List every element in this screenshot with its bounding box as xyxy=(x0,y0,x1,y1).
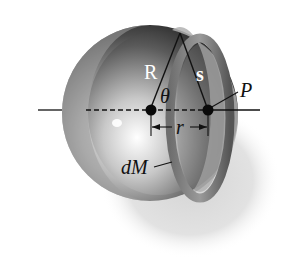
label-R: R xyxy=(144,62,157,82)
sphere-diagram: R s θ P r dM xyxy=(0,0,288,263)
center-point xyxy=(146,105,157,116)
label-P: P xyxy=(240,80,252,100)
label-dM: dM xyxy=(121,157,148,177)
label-r: r xyxy=(176,117,184,137)
point-P xyxy=(203,105,214,116)
specular-highlight xyxy=(112,119,122,127)
label-s: s xyxy=(196,64,204,84)
label-theta: θ xyxy=(160,86,170,106)
diagram-canvas xyxy=(0,0,288,263)
